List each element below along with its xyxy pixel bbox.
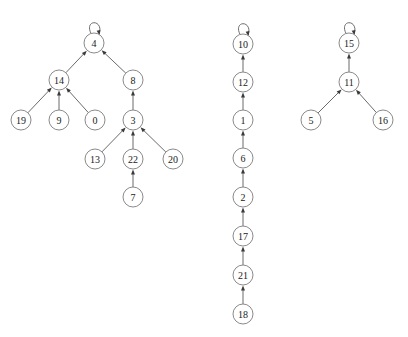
node-label: 12 — [238, 77, 248, 88]
graph-edge — [66, 88, 88, 113]
graph-node[interactable]: 21 — [233, 265, 253, 285]
graph-edge — [141, 127, 166, 152]
graph-edge — [131, 91, 135, 111]
graph-node[interactable]: 1 — [233, 110, 253, 130]
node-label: 17 — [238, 231, 248, 242]
graph-edge — [66, 51, 87, 73]
node-layer: 414819903132220710121621721181511516 — [11, 33, 393, 324]
graph-node[interactable]: 6 — [233, 148, 253, 168]
node-label: 9 — [57, 115, 62, 126]
node-label: 4 — [92, 38, 97, 49]
graph-edge — [102, 50, 126, 73]
edge-arrowhead — [241, 169, 245, 174]
graph-edge — [347, 54, 351, 73]
graph-node[interactable]: 8 — [123, 70, 143, 90]
graph-edge — [102, 128, 126, 152]
graph-edge — [241, 286, 245, 305]
edge-line — [318, 91, 340, 113]
edge-line — [103, 52, 125, 73]
edge-arrowhead — [131, 91, 135, 96]
edge-line — [358, 92, 377, 113]
graph-edge — [318, 89, 342, 113]
node-label: 5 — [309, 115, 314, 126]
graph-node[interactable]: 17 — [233, 226, 253, 246]
node-label: 21 — [238, 270, 248, 281]
edge-arrowhead — [131, 131, 135, 136]
graph-canvas: 414819903132220710121621721181511516 — [0, 0, 408, 337]
graph-node[interactable]: 7 — [123, 187, 143, 207]
edge-arrowhead — [241, 93, 245, 98]
graph-edge — [356, 90, 376, 113]
node-label: 15 — [344, 38, 354, 49]
graph-edge — [241, 247, 245, 266]
graph-node[interactable]: 13 — [85, 149, 105, 169]
graph-edge — [241, 169, 245, 188]
graph-diagram: 414819903132220710121621721181511516 — [0, 0, 408, 337]
graph-node[interactable]: 14 — [49, 70, 69, 90]
edge-line — [142, 129, 166, 152]
self-loop-layer — [89, 23, 355, 36]
graph-node[interactable]: 19 — [11, 110, 31, 130]
node-label: 2 — [241, 192, 246, 203]
node-label: 6 — [241, 153, 246, 164]
node-label: 3 — [131, 115, 136, 126]
graph-edge — [131, 170, 135, 188]
graph-node[interactable]: 12 — [233, 72, 253, 92]
graph-node[interactable]: 10 — [233, 34, 253, 54]
node-label: 11 — [344, 77, 354, 88]
edge-arrowhead — [57, 91, 61, 96]
graph-edge — [28, 88, 52, 113]
node-label: 7 — [131, 192, 136, 203]
graph-node[interactable]: 18 — [233, 304, 253, 324]
node-label: 1 — [241, 115, 246, 126]
node-label: 20 — [168, 154, 178, 165]
edge-line — [66, 52, 85, 72]
graph-edge — [241, 93, 245, 111]
node-label: 16 — [378, 115, 388, 126]
edge-line — [102, 129, 124, 152]
graph-node[interactable]: 5 — [301, 110, 321, 130]
edge-arrowhead — [241, 247, 245, 252]
graph-node[interactable]: 3 — [123, 110, 143, 130]
node-label: 8 — [131, 75, 136, 86]
graph-edge — [131, 131, 135, 150]
graph-node[interactable]: 15 — [339, 33, 359, 53]
graph-edge — [241, 131, 245, 149]
node-label: 19 — [16, 115, 26, 126]
edge-arrowhead — [241, 286, 245, 291]
edge-arrowhead — [241, 208, 245, 213]
graph-edge — [57, 91, 61, 111]
node-label: 22 — [128, 154, 138, 165]
edge-line — [68, 90, 89, 113]
graph-node[interactable]: 16 — [373, 110, 393, 130]
graph-node[interactable]: 22 — [123, 149, 143, 169]
graph-edge — [241, 208, 245, 227]
edge-arrowhead — [131, 170, 135, 175]
graph-node[interactable]: 20 — [163, 149, 183, 169]
graph-node[interactable]: 0 — [85, 110, 105, 130]
edge-layer — [28, 50, 376, 304]
edge-arrowhead — [347, 54, 351, 59]
node-label: 14 — [54, 75, 64, 86]
node-label: 13 — [90, 154, 100, 165]
graph-edge — [241, 55, 245, 73]
graph-node[interactable]: 9 — [49, 110, 69, 130]
edge-arrowhead — [241, 55, 245, 60]
edge-arrowhead — [241, 131, 245, 136]
graph-node[interactable]: 11 — [339, 72, 359, 92]
graph-node[interactable]: 2 — [233, 187, 253, 207]
node-label: 18 — [238, 309, 248, 320]
node-label: 0 — [93, 115, 98, 126]
node-label: 10 — [238, 39, 248, 50]
edge-line — [28, 89, 50, 112]
graph-node[interactable]: 4 — [84, 33, 104, 53]
